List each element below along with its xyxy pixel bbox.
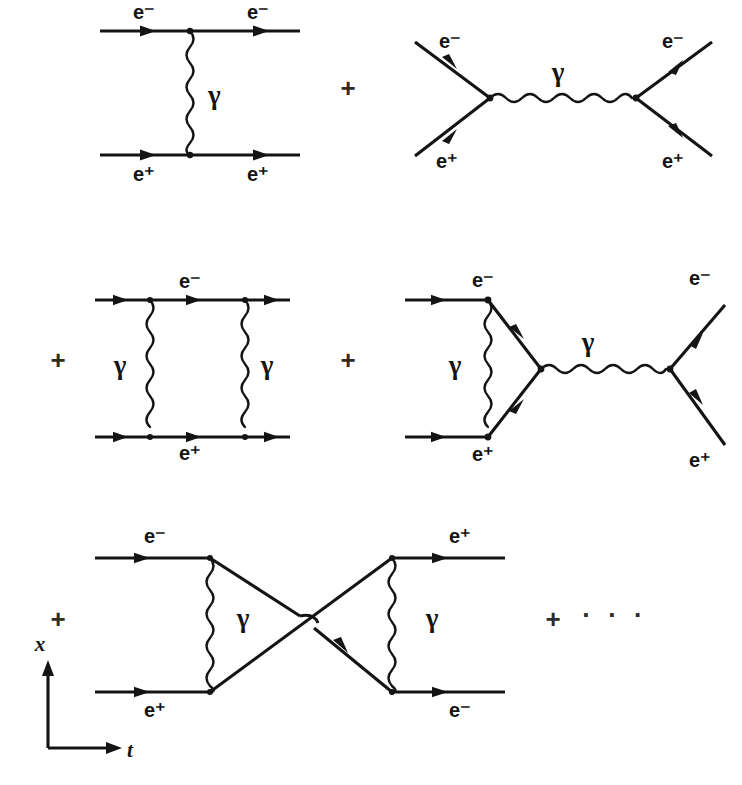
vertex-dot xyxy=(667,366,674,373)
arrow-right-icon xyxy=(186,295,201,305)
photon-propagator-right xyxy=(242,300,249,427)
label-positron-in: e⁺ xyxy=(436,150,458,172)
crossing-leg-down xyxy=(210,558,300,616)
arrow-right-icon xyxy=(431,432,446,442)
label-positron-out: e⁺ xyxy=(662,150,684,172)
vertex-dot xyxy=(485,434,492,441)
outgoing-electron-line xyxy=(670,305,725,369)
label-electron-out: e⁻ xyxy=(449,699,471,721)
plus-operator: + xyxy=(50,345,65,375)
arrow-right-icon xyxy=(113,432,128,442)
label-electron-in: e⁻ xyxy=(133,1,155,23)
arrow-right-icon xyxy=(140,26,156,37)
diagram-t-channel-tree: e⁻ e⁻ γ e⁺ e⁺ xyxy=(100,1,300,185)
vertex-dot xyxy=(487,95,494,102)
arrow-right-icon xyxy=(264,432,279,442)
label-positron-in: e⁺ xyxy=(144,699,166,721)
label-photon-right: γ xyxy=(260,350,274,380)
vertex-dot xyxy=(485,297,492,304)
vertex-dot xyxy=(389,555,395,561)
diagram-crossed-box: e⁻ γ e⁺ e⁺ γ e⁻ xyxy=(95,525,505,721)
plus-operator: + xyxy=(340,73,355,103)
vertex-dot xyxy=(187,152,193,158)
photon-propagator-left xyxy=(207,558,214,692)
label-photon-s-channel: γ xyxy=(581,327,595,357)
axis-label-x: x xyxy=(34,632,46,656)
photon-propagator-right xyxy=(389,558,396,692)
label-photon-loop: γ xyxy=(448,350,462,380)
diagram-box: e⁻ γ γ e⁺ xyxy=(95,270,290,464)
arrow-right-icon xyxy=(432,687,448,697)
vertex-dot xyxy=(147,297,153,303)
label-photon-right: γ xyxy=(425,603,439,633)
axis-arrow-right-icon xyxy=(106,742,122,754)
vertex-dot xyxy=(242,434,248,440)
vertex-dot xyxy=(389,689,395,695)
axes-key: x t xyxy=(34,632,134,762)
vertex-dot xyxy=(207,689,213,695)
diagram-s-channel-tree: e⁻ e⁻ γ e⁺ e⁺ xyxy=(415,30,712,172)
diagram-vertex-correction: e⁻ γ γ e⁺ e⁻ e⁺ xyxy=(405,267,725,471)
arrow-right-icon xyxy=(140,150,156,161)
plus-operator: + xyxy=(340,345,355,375)
photon-propagator-vertical xyxy=(187,31,194,155)
plus-operator: + xyxy=(545,604,560,634)
incoming-positron-line xyxy=(415,98,490,156)
axis-arrow-up-icon xyxy=(42,660,54,676)
photon-propagator-horizontal xyxy=(490,94,632,102)
label-electron-in: e⁻ xyxy=(439,30,461,52)
diagram-canvas: e⁻ e⁻ γ e⁺ e⁺ + e⁻ e⁻ γ e⁺ e⁺ xyxy=(0,0,742,785)
label-positron-out: e⁺ xyxy=(449,525,471,547)
label-positron-in: e⁺ xyxy=(472,443,494,465)
label-photon-left: γ xyxy=(236,603,250,633)
arrow-right-icon xyxy=(432,553,448,563)
label-electron-out: e⁻ xyxy=(689,267,711,289)
photon-propagator-left xyxy=(147,300,154,427)
label-positron-out: e⁺ xyxy=(689,449,711,471)
vertex-dot xyxy=(207,555,213,561)
arrow-right-icon xyxy=(134,687,150,697)
outgoing-positron-line xyxy=(670,369,725,445)
arrow-right-icon xyxy=(134,553,150,563)
photon-propagator-s-channel xyxy=(541,365,666,373)
vertex-dot xyxy=(187,28,193,34)
label-electron-in: e⁻ xyxy=(472,269,494,291)
label-photon-left: γ xyxy=(113,350,127,380)
vertex-dot xyxy=(242,297,248,303)
label-photon: γ xyxy=(207,80,221,110)
label-electron-out: e⁻ xyxy=(662,30,684,52)
label-positron-in: e⁺ xyxy=(133,163,155,185)
label-positron-bottom: e⁺ xyxy=(179,442,201,464)
label-electron-in: e⁻ xyxy=(144,525,166,547)
photon-loop-vertical xyxy=(485,300,492,427)
label-electron-top: e⁻ xyxy=(179,270,201,292)
arrow-right-icon xyxy=(253,150,269,161)
arrow-right-icon xyxy=(431,295,446,305)
arrow-right-icon xyxy=(264,295,279,305)
arrow-right-icon xyxy=(253,26,269,37)
vertex-dot xyxy=(633,95,640,102)
loop-upper-leg xyxy=(488,300,541,369)
plus-operator: + xyxy=(50,604,65,634)
label-photon: γ xyxy=(551,57,565,87)
vertex-dot xyxy=(538,366,545,373)
label-electron-out: e⁻ xyxy=(247,1,269,23)
axis-label-t: t xyxy=(127,738,134,762)
label-positron-out: e⁺ xyxy=(247,163,269,185)
vertex-dot xyxy=(147,434,153,440)
feynman-figure: e⁻ e⁻ γ e⁺ e⁺ + e⁻ e⁻ γ e⁺ e⁺ xyxy=(0,0,742,785)
loop-lower-leg xyxy=(488,369,541,437)
arrow-icon xyxy=(668,60,683,75)
ellipsis-operator: · · · xyxy=(582,600,647,630)
arrow-right-icon xyxy=(113,295,128,305)
crossing-leg-down-cont xyxy=(314,628,392,692)
arrow-right-icon xyxy=(186,432,201,442)
